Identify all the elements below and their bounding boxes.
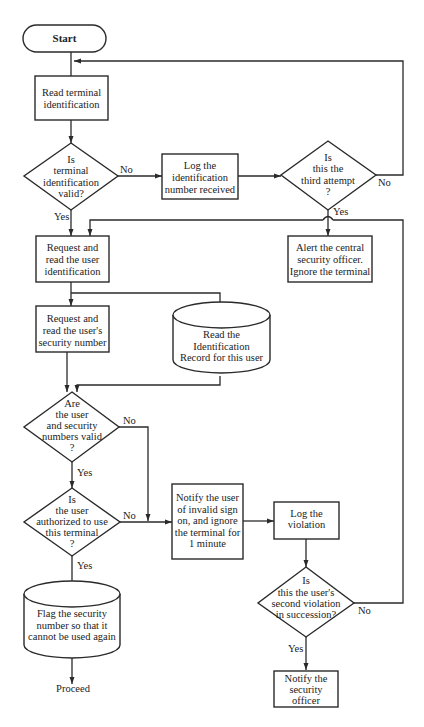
svg-text:number so that it: number so that it [37, 620, 108, 631]
edge-label-yes: Yes [288, 643, 303, 654]
svg-text:second violation: second violation [271, 598, 341, 609]
node-text: Flag the security [37, 608, 108, 619]
svg-text:Alert the central: Alert the central [296, 242, 364, 253]
svg-text:Read terminal: Read terminal [42, 87, 101, 98]
edge-label-yes: Yes [77, 467, 92, 478]
node-text: identification [45, 266, 102, 277]
read-terminal-identification-box: Read terminal identification [35, 76, 108, 120]
edge-label-yes: Yes [54, 211, 69, 222]
node-text: number received [165, 184, 236, 195]
node-text: Alert the central [296, 242, 364, 253]
svg-text:Is: Is [324, 152, 332, 163]
edge-label-no: No [120, 164, 133, 175]
log-identification-box: Log the identification number received [162, 154, 238, 199]
svg-text:authorized to use: authorized to use [36, 516, 108, 527]
svg-text:third attempt: third attempt [301, 175, 355, 186]
svg-text:Is: Is [68, 494, 76, 505]
svg-text:Log the: Log the [290, 508, 323, 519]
proceed-label: Proceed [56, 683, 91, 694]
notify-security-officer-box: Notify the security officer [274, 671, 338, 707]
svg-text:read the user: read the user [46, 254, 100, 265]
start-label: Start [53, 32, 77, 44]
node-text: ? [70, 538, 75, 549]
edge-label-no: No [378, 177, 391, 188]
node-text: read the user [46, 254, 100, 265]
node-text: identification [172, 172, 229, 183]
node-text: officer [292, 695, 320, 706]
node-text: Notify the [285, 673, 328, 684]
request-security-number-box: Request and read the user's security num… [36, 306, 109, 352]
node-text: authorized to use [36, 516, 108, 527]
svg-text:the user: the user [56, 409, 89, 420]
svg-text:and security: and security [46, 420, 98, 431]
node-text: Is [324, 152, 332, 163]
svg-text:this the user's: this the user's [278, 587, 335, 598]
authorized-decision: Is the user authorized to use this termi… [24, 488, 120, 556]
node-text: the user [56, 409, 89, 420]
node-text: this the [313, 163, 344, 174]
node-text: Log the [290, 508, 323, 519]
node-text: security [289, 684, 323, 695]
svg-text:Request and: Request and [47, 242, 99, 253]
node-text: ? [70, 442, 75, 453]
node-text: Log the [184, 160, 217, 171]
node-text: security number [39, 337, 107, 348]
node-text: security officer. [297, 254, 363, 265]
second-violation-decision: Is this the user's second violation in s… [258, 567, 354, 637]
svg-text:Request and: Request and [47, 313, 99, 324]
svg-text:on, and ignore: on, and ignore [177, 515, 238, 526]
svg-text:the terminal for: the terminal for [175, 527, 241, 538]
node-text: read the user's [43, 325, 103, 336]
node-text: Read terminal [42, 87, 101, 98]
request-user-identification-box: Request and read the user identification [36, 236, 109, 282]
svg-text:in succession?: in succession? [276, 609, 337, 620]
svg-text:valid?: valid? [58, 188, 84, 199]
svg-text:officer: officer [292, 695, 320, 706]
svg-text:Ignore the terminal: Ignore the terminal [290, 266, 371, 277]
edge-label-no: No [123, 510, 136, 521]
node-text: Is [68, 494, 76, 505]
svg-text:security number: security number [39, 337, 107, 348]
edge-label-no: No [358, 605, 371, 616]
svg-text:Flag the security: Flag the security [37, 608, 108, 619]
start-terminator: Start [23, 25, 106, 52]
svg-text:Is: Is [67, 154, 75, 165]
node-text: Request and [47, 313, 99, 324]
node-text: in succession? [276, 609, 337, 620]
log-violation-box: Log the violation [274, 502, 339, 539]
node-text: identification [44, 99, 101, 110]
node-text: ? [326, 186, 331, 197]
svg-text:Notify the user: Notify the user [176, 492, 239, 503]
node-text: Read the [203, 329, 240, 340]
svg-text:Read the: Read the [203, 329, 240, 340]
svg-text:read the user's: read the user's [43, 325, 103, 336]
svg-text:?: ? [70, 538, 75, 549]
svg-text:?: ? [326, 186, 331, 197]
svg-text:1 minute: 1 minute [189, 538, 226, 549]
svg-text:the user: the user [56, 505, 89, 516]
svg-text:Notify the: Notify the [285, 673, 328, 684]
svg-text:Is: Is [302, 575, 310, 586]
node-text: violation [288, 519, 326, 530]
node-text: Record for this user [180, 352, 264, 363]
third-attempt-decision: Is this the third attempt ? [281, 141, 376, 210]
node-text: Request and [47, 242, 99, 253]
svg-text:security officer.: security officer. [297, 254, 363, 265]
svg-text:cannot be used again: cannot be used again [28, 631, 117, 642]
flag-security-number-storage: Flag the security number so that it cann… [24, 581, 120, 658]
alert-security-officer-box: Alert the central security officer. Igno… [288, 236, 372, 282]
node-text: Ignore the terminal [290, 266, 371, 277]
svg-text:this the: this the [313, 163, 344, 174]
read-identification-record-storage: Read the Identification Record for this … [173, 302, 270, 373]
notify-user-box: Notify the user of invalid sign on, and … [172, 484, 243, 559]
svg-text:?: ? [70, 442, 75, 453]
svg-text:of invalid sign: of invalid sign [177, 504, 238, 515]
svg-text:Identification: Identification [193, 341, 250, 352]
node-text: terminal [54, 165, 89, 176]
svg-text:terminal: terminal [54, 165, 89, 176]
node-text: cannot be used again [28, 631, 117, 642]
node-text: Notify the user [176, 492, 239, 503]
terminal-valid-decision: Is terminal identification valid? [24, 143, 118, 210]
svg-text:this terminal: this terminal [46, 527, 99, 538]
svg-text:number received: number received [165, 184, 236, 195]
